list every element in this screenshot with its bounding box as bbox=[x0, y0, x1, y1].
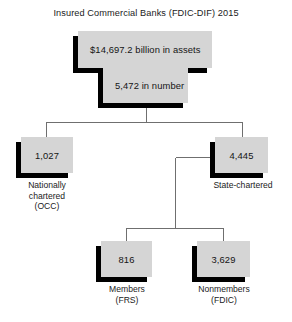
node-nationally-chartered[interactable]: 1,027 bbox=[21, 137, 73, 173]
node-number-face: 5,472 in number bbox=[103, 68, 188, 103]
node-state-chartered[interactable]: 4,445 bbox=[215, 137, 268, 173]
node-assets[interactable]: $14,697.2 billion in assets bbox=[78, 31, 212, 68]
node-members-frs[interactable]: 816 bbox=[101, 241, 152, 277]
node-nationally-chartered-value: 1,027 bbox=[35, 150, 59, 161]
node-nonmembers-fdic[interactable]: 3,629 bbox=[197, 241, 250, 277]
node-state-chartered-face: 4,445 bbox=[215, 137, 268, 173]
caption-nationally-chartered: Nationally chartered (OCC) bbox=[2, 180, 92, 212]
node-members-frs-value: 816 bbox=[119, 254, 135, 265]
node-nonmembers-fdic-face: 3,629 bbox=[197, 241, 250, 277]
caption-nonmembers-fdic: Nonmembers (FDIC) bbox=[180, 284, 268, 305]
caption-members-frs: Members (FRS) bbox=[84, 284, 170, 305]
org-chart-diagram: Insured Commercial Banks (FDIC-DIF) 2015… bbox=[0, 0, 292, 322]
node-nonmembers-fdic-value: 3,629 bbox=[212, 254, 236, 265]
node-members-frs-face: 816 bbox=[101, 241, 152, 277]
node-number-value: 5,472 in number bbox=[103, 80, 184, 91]
node-assets-value: $14,697.2 billion in assets bbox=[78, 44, 201, 55]
node-number[interactable]: 5,472 in number bbox=[103, 68, 188, 103]
node-assets-face: $14,697.2 billion in assets bbox=[78, 31, 212, 68]
caption-state-chartered: State-chartered bbox=[197, 180, 289, 191]
node-state-chartered-value: 4,445 bbox=[230, 150, 254, 161]
node-nationally-chartered-face: 1,027 bbox=[21, 137, 73, 173]
